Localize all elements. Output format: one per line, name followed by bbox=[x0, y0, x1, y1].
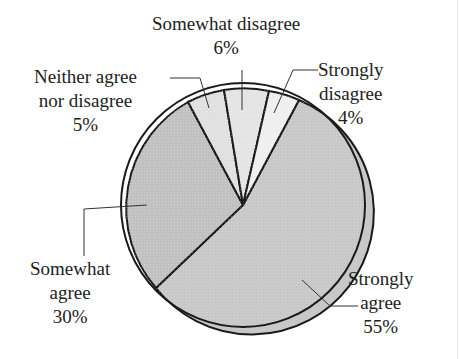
label-neither: Neither agree nor disagree 5% bbox=[34, 65, 137, 137]
label-text: agree bbox=[348, 291, 413, 315]
label-value: 55% bbox=[348, 315, 413, 339]
label-somewhat-agree: Somewhat agree 30% bbox=[30, 257, 110, 329]
label-somewhat-disagree: Somewhat disagree 6% bbox=[152, 12, 300, 60]
label-text: Somewhat disagree bbox=[152, 12, 300, 36]
label-text: Strongly bbox=[348, 267, 413, 291]
label-value: 6% bbox=[152, 36, 300, 60]
label-strongly-agree: Strongly agree 55% bbox=[348, 267, 413, 339]
label-value: 30% bbox=[30, 305, 110, 329]
label-text: nor disagree bbox=[34, 89, 137, 113]
label-text: Neither agree bbox=[34, 65, 137, 89]
label-value: 4% bbox=[318, 106, 383, 130]
page-edge-divider bbox=[457, 0, 458, 359]
label-text: Somewhat bbox=[30, 257, 110, 281]
label-strongly-disagree: Strongly disagree 4% bbox=[318, 58, 383, 130]
label-text: Strongly bbox=[318, 58, 383, 82]
label-value: 5% bbox=[34, 113, 137, 137]
label-text: agree bbox=[30, 281, 110, 305]
label-text: disagree bbox=[318, 82, 383, 106]
